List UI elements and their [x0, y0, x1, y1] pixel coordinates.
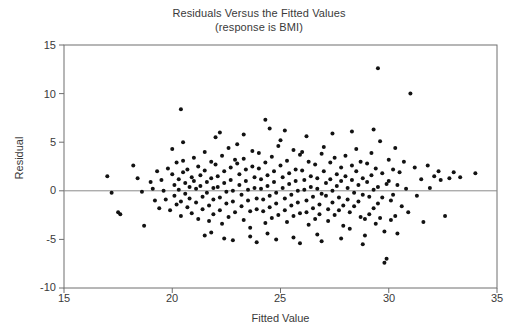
data-point-cloud — [105, 66, 477, 264]
residual-scatter-plot: Residuals Versus the Fitted Values (resp… — [0, 0, 518, 333]
axis-ticks — [59, 45, 497, 293]
plot-canvas — [0, 0, 518, 333]
